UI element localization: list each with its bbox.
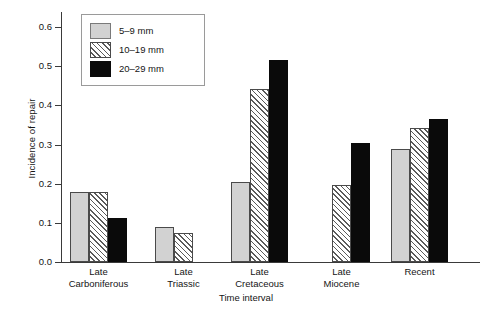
bar xyxy=(391,149,410,262)
chart-legend: 5–9 mm10–19 mm20–29 mm xyxy=(81,14,205,86)
x-tick-label: Recent xyxy=(375,266,465,278)
y-tick-label: 0.0 xyxy=(20,256,52,267)
bar xyxy=(231,182,250,262)
legend-label: 10–19 mm xyxy=(119,44,164,55)
legend-swatch-icon xyxy=(90,23,111,39)
x-tick-label: LateCarboniferous xyxy=(54,266,144,289)
bar xyxy=(250,89,269,263)
bar xyxy=(174,233,193,262)
y-tick-label: 0.2 xyxy=(20,178,52,189)
x-axis-line xyxy=(61,262,480,263)
bar-group xyxy=(391,12,448,262)
legend-label: 5–9 mm xyxy=(119,25,153,36)
bar xyxy=(410,128,429,262)
bar-chart-figure: Incidence of repair 0.00.10.20.30.40.50.… xyxy=(0,0,492,313)
legend-label: 20–29 mm xyxy=(119,63,164,74)
y-tick-label: 0.6 xyxy=(20,21,52,32)
x-tick-label: LateMiocene xyxy=(297,266,387,289)
y-tick-label: 0.1 xyxy=(20,217,52,228)
x-tick-label-line: Recent xyxy=(375,266,465,278)
legend-swatch-icon xyxy=(90,61,111,77)
bar-group xyxy=(313,12,370,262)
bar xyxy=(269,60,288,262)
bar xyxy=(351,143,370,262)
x-tick-label-line: Late xyxy=(215,266,305,278)
x-tick-label: LateCretaceous xyxy=(215,266,305,289)
bar xyxy=(429,119,448,262)
y-tick-label: 0.4 xyxy=(20,99,52,110)
bar xyxy=(108,218,127,262)
bar xyxy=(70,192,89,262)
bar xyxy=(155,227,174,262)
bar xyxy=(332,185,351,262)
x-axis-title: Time interval xyxy=(0,292,492,303)
x-tick-label-line: Carboniferous xyxy=(54,278,144,290)
bar-group xyxy=(231,12,288,262)
x-tick-label-line: Cretaceous xyxy=(215,278,305,290)
x-tick-label-line: Late xyxy=(297,266,387,278)
bar xyxy=(89,192,108,262)
x-tick-label-line: Late xyxy=(54,266,144,278)
legend-swatch-icon xyxy=(90,42,111,58)
y-tick-label: 0.3 xyxy=(20,139,52,150)
y-tick-label: 0.5 xyxy=(20,60,52,71)
x-tick-label-line: Miocene xyxy=(297,278,387,290)
y-tick-mark xyxy=(55,262,62,263)
